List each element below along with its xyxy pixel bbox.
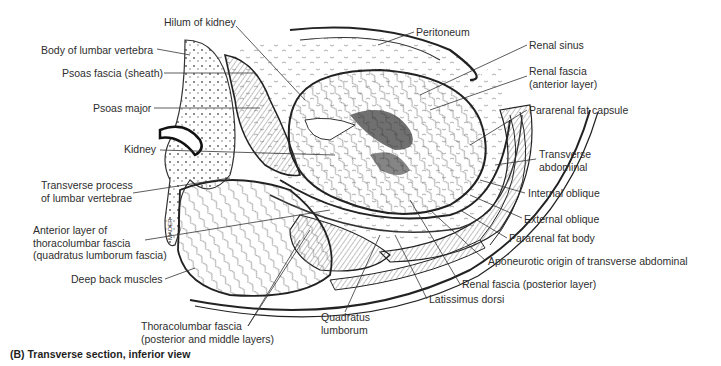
anatomy-figure: MADER Hilum of kidney bbox=[0, 0, 721, 366]
label-deep-back-muscles: Deep back muscles bbox=[71, 273, 163, 286]
label-peritoneum: Peritoneum bbox=[416, 26, 470, 39]
label-psoas-fascia-sheath: Psoas fascia (sheath) bbox=[62, 67, 163, 80]
label-external-oblique: External oblique bbox=[524, 213, 599, 226]
label-aponeurotic-origin: Aponeurotic origin of transverse abdomin… bbox=[488, 255, 688, 268]
label-thoracolumbar-fascia: Thoracolumbar fascia (posterior and midd… bbox=[141, 320, 274, 345]
label-anterior-layer-thoracolumbar-fascia: Anterior layer of thoracolumbar fascia (… bbox=[33, 224, 167, 262]
label-latissimus-dorsi: Latissimus dorsi bbox=[429, 293, 504, 306]
label-renal-sinus: Renal sinus bbox=[529, 39, 584, 52]
figure-caption: (B) Transverse section, inferior view bbox=[10, 348, 190, 360]
label-body-of-lumbar-vertebra: Body of lumbar vertebra bbox=[41, 44, 153, 57]
label-transverse-process: Transverse process of lumbar vertebrae bbox=[41, 179, 133, 204]
label-quadratus-lumborum: Quadratus lumborum bbox=[321, 311, 370, 336]
label-psoas-major: Psoas major bbox=[93, 102, 151, 115]
label-internal-oblique: Internal oblique bbox=[528, 187, 600, 200]
label-pararenal-fat-capsule: Pararenal fat capsule bbox=[529, 104, 628, 117]
label-transverse-abdominal: Transverse abdominal bbox=[539, 148, 591, 173]
label-renal-fascia-posterior: Renal fascia (posterior layer) bbox=[462, 278, 596, 291]
label-renal-fascia-anterior: Renal fascia (anterior layer) bbox=[529, 65, 597, 90]
label-hilum-of-kidney: Hilum of kidney bbox=[164, 16, 236, 29]
label-pararenal-fat-body: Pararenal fat body bbox=[509, 232, 595, 245]
label-kidney: Kidney bbox=[124, 143, 156, 156]
